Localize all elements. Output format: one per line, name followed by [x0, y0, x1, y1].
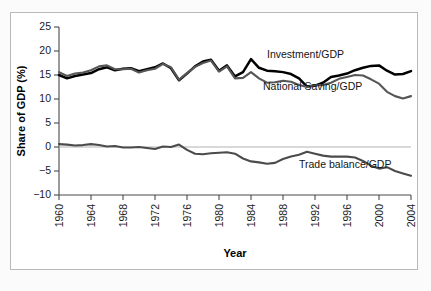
x-axis-tick-label: 1972 [149, 204, 161, 228]
line-chart: 2520151050−5−101960196419681972197619801… [11, 13, 419, 271]
x-axis-tick-label: 1984 [245, 204, 257, 228]
series-label-investment: Investment/GDP [267, 48, 344, 60]
y-axis-tick-label: −10 [33, 188, 51, 200]
x-axis-tick-label: 1964 [85, 204, 97, 228]
source-note [12, 284, 312, 291]
x-axis-tick-label: 1988 [277, 204, 289, 228]
x-axis-tick-label: 1992 [309, 204, 321, 228]
figure-container: 2520151050−5−101960196419681972197619801… [0, 0, 431, 291]
x-axis-tick-label: 2000 [373, 204, 385, 228]
x-axis-title: Year [223, 247, 247, 259]
x-axis-tick-label: 1976 [181, 204, 193, 228]
x-axis-tick-label: 1996 [341, 204, 353, 228]
y-axis-tick-label: 15 [39, 68, 51, 80]
x-axis-tick-label: 2004 [405, 204, 417, 228]
series-label-national-saving: National Saving/GDP [263, 80, 362, 92]
y-axis-tick-label: 25 [39, 20, 51, 32]
figure-frame: 2520151050−5−101960196419681972197619801… [10, 12, 418, 270]
x-axis-tick-label: 1960 [53, 204, 65, 228]
y-axis-tick-label: −5 [39, 164, 51, 176]
y-axis-tick-label: 5 [45, 116, 51, 128]
y-axis-tick-label: 10 [39, 92, 51, 104]
y-axis-tick-label: 20 [39, 44, 51, 56]
series-label-trade-balance: Trade balance/GDP [299, 158, 391, 170]
x-axis-tick-label: 1980 [213, 204, 225, 228]
y-axis-title: Share of GDP (%) [15, 65, 27, 156]
plot-area: 2520151050−5−101960196419681972197619801… [11, 13, 419, 271]
x-axis-tick-label: 1968 [117, 204, 129, 228]
y-axis-tick-label: 0 [45, 140, 51, 152]
